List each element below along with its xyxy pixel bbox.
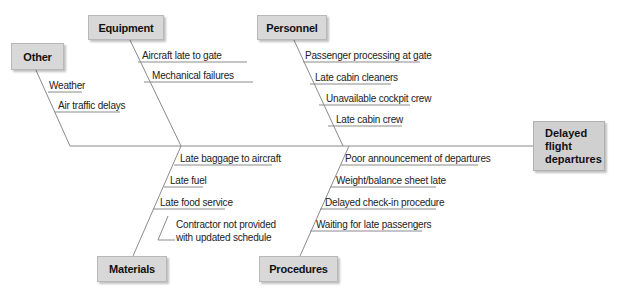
cause-passenger-processing: Passenger processing at gate [305, 50, 432, 62]
subcause-line-1: Contractor not provided [176, 218, 276, 231]
cause-late-cabin-cleaners: Late cabin cleaners [315, 72, 398, 84]
cause-delayed-check-in: Delayed check-in procedure [325, 197, 444, 209]
subcause-contractor: Contractor not provided with updated sch… [176, 218, 276, 244]
cause-late-food-service: Late food service [160, 197, 233, 209]
category-materials-label: Materials [109, 263, 155, 275]
effect-line-1: Delayed [545, 127, 604, 140]
category-materials: Materials [97, 256, 167, 282]
cause-poor-announcement: Poor announcement of departures [345, 153, 491, 165]
cause-weight-balance-sheet: Weight/balance sheet late [336, 175, 446, 187]
category-personnel: Personnel [257, 15, 327, 40]
cause-unavailable-cockpit-crew: Unavailable cockpit crew [326, 93, 431, 105]
cause-late-fuel: Late fuel [170, 175, 207, 187]
effect-line-3: departures [545, 153, 604, 166]
cause-aircraft-late-to-gate: Aircraft late to gate [142, 50, 222, 62]
cause-waiting-for-late-passengers: Waiting for late passengers [316, 219, 431, 231]
cause-mechanical-failures: Mechanical failures [152, 70, 234, 82]
subcause-line-2: with updated schedule [176, 231, 276, 244]
category-equipment-label: Equipment [98, 22, 153, 34]
category-other-label: Other [23, 51, 51, 63]
category-procedures: Procedures [259, 256, 338, 282]
category-other: Other [11, 43, 64, 70]
category-equipment: Equipment [88, 15, 164, 40]
category-procedures-label: Procedures [269, 263, 328, 275]
category-personnel-label: Personnel [266, 22, 317, 34]
cause-late-cabin-crew: Late cabin crew [336, 114, 403, 126]
fishbone-lines [0, 0, 620, 298]
cause-late-baggage: Late baggage to aircraft [180, 153, 281, 165]
cause-weather: Weather [49, 80, 85, 92]
effect-line-2: flight [545, 140, 604, 153]
cause-air-traffic-delays: Air traffic delays [58, 100, 125, 112]
effect-box: Delayed flight departures [533, 121, 605, 171]
